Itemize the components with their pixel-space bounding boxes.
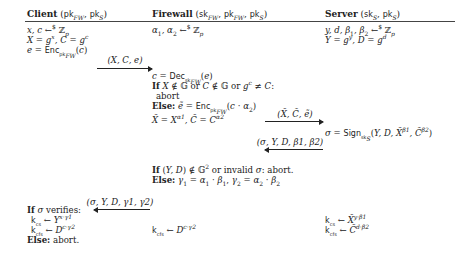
client-keys: (pkFW, pkS) (60, 9, 107, 19)
message-4-label: (σ, Y, D, γ1, γ2) (80, 197, 160, 207)
client-sample: x, c ←$ ℤp (27, 25, 69, 35)
firewall-abort: abort (156, 91, 179, 101)
firewall-header: Firewall (skFW, pkFW, pkS) (152, 9, 267, 20)
firewall-kcfs: kcfs ← Dc·γ2 (152, 225, 196, 236)
server-kcfs: kcfs ← C̃d·β2 (325, 225, 369, 236)
message-3-label: (σ, Y, D, β1, β2) (250, 137, 330, 147)
client-encrypt: e = EncpkFW(c) (27, 45, 87, 56)
firewall-blind: X̃ = Xα1, C̃ = Cα2 (152, 115, 224, 125)
message-4-arrow (94, 209, 150, 210)
message-2-arrow (265, 121, 323, 122)
server-title: Server (325, 9, 358, 19)
server-commit: Y = gy, D = gd (325, 35, 387, 45)
message-1-arrow (97, 68, 152, 69)
firewall-gammas: Else: γ1 = α1 · β1, γ2 = α2 · β2 (152, 175, 280, 185)
client-commit: X = gx, C = gc (27, 35, 88, 45)
client-else: Else: abort. (27, 235, 79, 245)
header-rule (25, 21, 455, 22)
server-keys: (skS, pkS) (361, 9, 401, 19)
firewall-title: Firewall (152, 9, 193, 19)
client-header: Client (pkFW, pkS) (27, 9, 107, 20)
message-2-label: (X̃, C̃, ẽ) (265, 109, 325, 119)
firewall-sample: α1, α2 ←$ ℤp (152, 25, 203, 35)
client-verify: If σ verifies: (27, 205, 81, 215)
server-header: Server (skS, pkS) (325, 9, 400, 20)
firewall-check: If X ∉ 𝔾 or C ∉ 𝔾 or gc ≠ C: (152, 81, 274, 91)
client-title: Client (27, 9, 57, 19)
firewall-keys: (skFW, pkFW, pkS) (196, 9, 268, 19)
firewall-reencrypt: Else: ẽ = EncpkFW(c · α2) (152, 101, 256, 112)
message-1-label: (X, C, e) (95, 55, 155, 65)
server-sign: σ = SignskS(Y, D, X̃β1, C̃β2) (325, 128, 432, 139)
message-3-arrow (265, 149, 323, 150)
firewall-verify: If (Y, D) ∉ 𝔾2 or invalid σ: abort. (152, 165, 293, 175)
